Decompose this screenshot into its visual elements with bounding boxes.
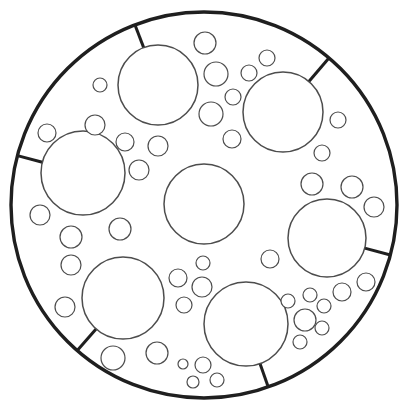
cluster-satellite-circle-0 bbox=[169, 269, 187, 287]
cluster-satellite-circle-0 bbox=[176, 297, 192, 313]
cluster-satellite-circle-1 bbox=[293, 335, 307, 349]
cluster-satellite-circle-2 bbox=[178, 359, 188, 369]
cluster-hub-circle-0 bbox=[192, 277, 212, 297]
satellite-circle-top-left bbox=[93, 78, 107, 92]
bridge-satellite-circle bbox=[116, 133, 134, 151]
bridge-satellite-circle bbox=[109, 218, 131, 240]
satellite-circle-top-right bbox=[259, 50, 275, 66]
satellite-circle-left bbox=[129, 160, 149, 180]
satellite-circle-top-left bbox=[199, 102, 223, 126]
branch-circle-top-right bbox=[243, 72, 323, 152]
mind-map-diagram bbox=[0, 0, 407, 411]
satellite-circle-right bbox=[341, 176, 363, 198]
satellite-circle-left bbox=[30, 205, 50, 225]
cluster-satellite-circle-1 bbox=[303, 288, 317, 302]
satellite-circle-top-right bbox=[314, 145, 330, 161]
satellite-circle-right bbox=[333, 283, 351, 301]
satellite-circle-top-right bbox=[241, 65, 257, 81]
satellite-circle-top-left bbox=[204, 62, 228, 86]
satellite-circle-top-left bbox=[148, 136, 168, 156]
satellite-circle-right bbox=[261, 250, 279, 268]
cluster-satellite-circle-2 bbox=[187, 376, 199, 388]
cluster-satellite-circle-0 bbox=[196, 256, 210, 270]
satellite-circle-left bbox=[85, 115, 105, 135]
diagram-canvas bbox=[0, 0, 407, 411]
satellite-circle-bottom-left bbox=[61, 255, 81, 275]
satellite-circle-bottom-left bbox=[55, 297, 75, 317]
satellite-circle-right bbox=[301, 173, 323, 195]
cluster-satellite-circle-1 bbox=[317, 299, 331, 313]
satellite-circle-top-right bbox=[330, 112, 346, 128]
cluster-satellite-circle-1 bbox=[315, 321, 329, 335]
satellite-circle-top-right bbox=[223, 130, 241, 148]
satellite-circle-right bbox=[364, 197, 384, 217]
satellite-circle-left bbox=[38, 124, 56, 142]
branch-circle-left bbox=[41, 131, 125, 215]
satellite-circle-bottom-left bbox=[146, 342, 168, 364]
satellite-circle-top-left bbox=[194, 32, 216, 54]
satellite-circle-left bbox=[60, 226, 82, 248]
cluster-satellite-circle-2 bbox=[210, 373, 224, 387]
center-circle bbox=[164, 164, 244, 244]
branch-circle-top-left bbox=[118, 45, 198, 125]
cluster-hub-circle-1 bbox=[294, 309, 316, 331]
satellite-circle-bottom-left bbox=[101, 346, 125, 370]
satellite-circle-right bbox=[357, 273, 375, 291]
cluster-satellite-circle-1 bbox=[281, 294, 295, 308]
branch-circle-bottom-left bbox=[82, 257, 164, 339]
satellite-circle-top-right bbox=[225, 89, 241, 105]
branch-circle-bottom-right bbox=[204, 282, 288, 366]
branch-circle-right bbox=[288, 199, 366, 277]
cluster-hub-circle-2 bbox=[195, 357, 211, 373]
